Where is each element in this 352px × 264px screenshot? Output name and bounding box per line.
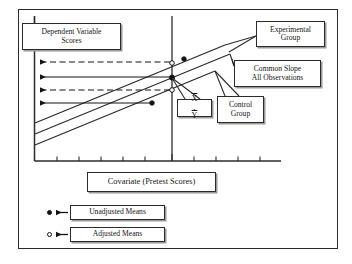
callout-y-bar: Y bbox=[178, 112, 211, 121]
callout-group-means: X, Y bbox=[177, 99, 212, 117]
legend-item-unadjusted-means: Unadjusted Means bbox=[70, 205, 165, 220]
open-circle-icon bbox=[47, 232, 52, 237]
callout-control-group: Control Group bbox=[217, 96, 264, 123]
callout-experimental-line2: Group bbox=[257, 34, 324, 43]
callout-common-slope: Common Slope All Observations bbox=[234, 60, 321, 87]
y-axis-label-line2: Scores bbox=[23, 37, 120, 46]
x-axis-label-text: Covariate (Pretest Scores) bbox=[88, 177, 215, 186]
ancova-diagram: Dependent Variable Scores Experimental G… bbox=[0, 0, 352, 264]
y-axis-label-box: Dependent Variable Scores bbox=[22, 23, 121, 50]
callout-control-line2: Group bbox=[218, 110, 263, 119]
legend-label-unadjusted: Unadjusted Means bbox=[71, 208, 164, 217]
callout-common-slope-line2: All Observations bbox=[235, 74, 320, 83]
x-axis-label-box: Covariate (Pretest Scores) bbox=[87, 172, 216, 192]
callout-experimental-group: Experimental Group bbox=[256, 21, 325, 47]
legend-item-adjusted-means: Adjusted Means bbox=[70, 227, 165, 242]
filled-dot-icon bbox=[47, 210, 52, 215]
legend-label-adjusted: Adjusted Means bbox=[71, 230, 164, 239]
